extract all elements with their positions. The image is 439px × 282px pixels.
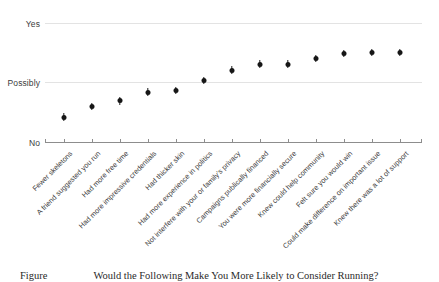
data-point-marker: [146, 90, 151, 95]
x-axis-start-cap: [45, 139, 46, 143]
y-tick-label-no: No: [29, 138, 40, 148]
data-point: [282, 0, 294, 150]
y-tick-label-yes: Yes: [26, 19, 40, 29]
data-point-marker: [314, 56, 319, 61]
data-point-marker: [258, 62, 263, 67]
data-point: [338, 0, 350, 150]
figure-caption: FigureWould the Following Make You More …: [20, 270, 430, 281]
data-point-marker: [230, 68, 235, 73]
data-point-marker: [202, 78, 207, 83]
x-axis-category-label: Fewer skeletons: [30, 149, 74, 193]
caption-prefix: Figure: [20, 270, 47, 281]
x-axis-end-cap: [421, 139, 422, 143]
x-axis-category-label: Felt sure you would win: [294, 149, 354, 209]
data-point: [58, 0, 70, 150]
x-axis-category-label: Campaigns publically financed: [194, 149, 270, 225]
x-axis-category-label: Had thicker skin: [143, 149, 186, 192]
x-axis-category-label: Had more free time: [80, 149, 131, 200]
data-point: [226, 0, 238, 150]
caption-text: Would the Following Make You More Likely…: [93, 270, 378, 281]
data-point: [142, 0, 154, 150]
data-point: [170, 0, 182, 150]
data-point: [198, 0, 210, 150]
x-axis-category-label: A friend suggested you run: [35, 149, 103, 217]
data-point-marker: [174, 88, 179, 93]
x-axis-category-label: You were more financially secure: [216, 149, 298, 231]
data-point-marker: [342, 51, 347, 56]
data-point: [310, 0, 322, 150]
x-axis-category-label: Knew there was a lot of support: [332, 149, 411, 228]
data-point: [254, 0, 266, 150]
data-point-marker: [62, 115, 67, 120]
x-axis-category-label: Not interfere with your or family's priv…: [143, 149, 242, 248]
data-point-marker: [398, 50, 403, 55]
x-axis-category-label: Had more impressive credentials: [77, 149, 158, 230]
data-point: [366, 0, 378, 150]
data-point-marker: [370, 50, 375, 55]
x-axis-category-label: Could make difference on important issue: [281, 149, 382, 250]
figure-container: Yes Possibly No Fewer skeletonsA friend …: [0, 0, 439, 282]
data-point-marker: [90, 104, 95, 109]
y-tick-label-possibly: Possibly: [8, 78, 40, 88]
plot-area: Yes Possibly No: [0, 0, 439, 150]
data-point-marker: [118, 98, 123, 103]
data-point-marker: [286, 62, 291, 67]
x-axis-category-label: Had more experience in politics: [136, 149, 214, 227]
data-point: [114, 0, 126, 150]
x-axis-category-label: Knew could help community: [256, 149, 327, 220]
data-point: [394, 0, 406, 150]
data-point: [86, 0, 98, 150]
